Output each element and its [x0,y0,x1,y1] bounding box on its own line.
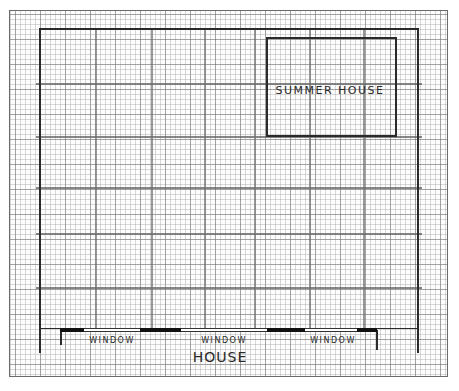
guide-line-vertical [254,28,256,328]
house-window [305,328,357,332]
window-label: WINDOW [310,336,356,345]
house-label: HOUSE [193,349,248,365]
house-wall-segment [140,328,181,332]
boundary-right-line [417,28,419,353]
boundary-top-line [39,28,419,30]
house-wall-segment [267,328,305,332]
guide-line-vertical [151,28,153,328]
house-window [181,328,267,332]
guide-line-vertical [95,28,97,328]
house-left-wall [60,330,62,345]
house-wall-segment [357,328,377,332]
summer-house-label: SUMMER HOUSE [275,84,384,97]
guide-line-vertical [204,28,206,328]
house-window [84,328,140,332]
window-label: WINDOW [201,336,247,345]
window-label: WINDOW [89,336,135,345]
boundary-left-line [39,28,41,353]
house-wall-segment [60,328,84,332]
house-right-wall [376,330,378,350]
